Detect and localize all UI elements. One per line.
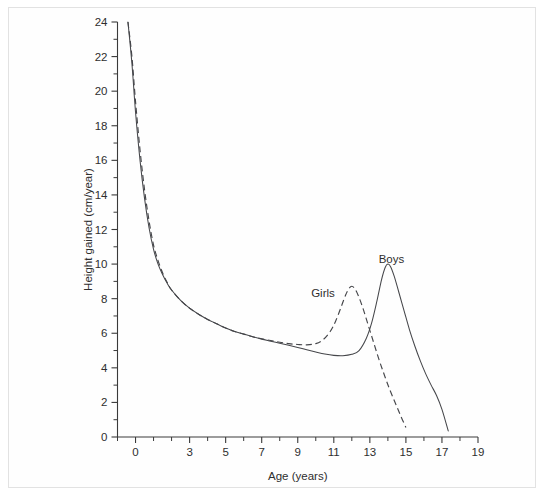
x-tick-label: 13 [363, 446, 376, 458]
axis-group [118, 22, 479, 437]
y-axis-title: Height gained (cm/year) [82, 168, 94, 291]
y-tick-label: 14 [95, 189, 108, 201]
y-tick-label: 24 [95, 16, 108, 28]
x-axis-ticks [118, 437, 479, 443]
y-tick-label: 6 [101, 327, 107, 339]
series-label-boys: Boys [379, 253, 405, 265]
y-tick-label: 10 [95, 258, 108, 270]
x-tick-label: 0 [132, 446, 138, 458]
x-tick-label: 19 [472, 446, 485, 458]
x-tick-label: 17 [436, 446, 449, 458]
data-curves [128, 22, 448, 431]
y-tick-label: 20 [95, 85, 108, 97]
y-tick-label: 12 [95, 224, 108, 236]
y-axis-ticks [112, 22, 118, 437]
x-tick-label: 9 [295, 446, 301, 458]
x-tick-label: 15 [400, 446, 413, 458]
y-tick-label: 22 [95, 51, 108, 63]
growth-velocity-chart-figure: 035791113151719 024681012141618202224 Gi… [0, 0, 545, 496]
x-tick-label: 5 [222, 446, 228, 458]
y-tick-label: 2 [101, 396, 107, 408]
series-annotations: GirlsBoys [311, 253, 404, 299]
x-axis-tick-labels: 035791113151719 [132, 446, 484, 458]
y-tick-label: 16 [95, 154, 108, 166]
y-tick-label: 18 [95, 120, 108, 132]
y-axis-tick-labels: 024681012141618202224 [95, 16, 108, 443]
y-tick-label: 4 [101, 362, 108, 374]
curve-girls [128, 22, 406, 427]
series-label-girls: Girls [311, 287, 335, 299]
x-axis-title: Age (years) [268, 470, 328, 482]
y-tick-label: 8 [101, 293, 107, 305]
y-tick-label: 0 [101, 431, 107, 443]
curve-boys [128, 22, 448, 431]
x-tick-label: 3 [186, 446, 192, 458]
x-tick-label: 11 [328, 446, 340, 458]
chart-plot-area: 035791113151719 024681012141618202224 Gi… [0, 0, 545, 496]
x-tick-label: 7 [258, 446, 264, 458]
